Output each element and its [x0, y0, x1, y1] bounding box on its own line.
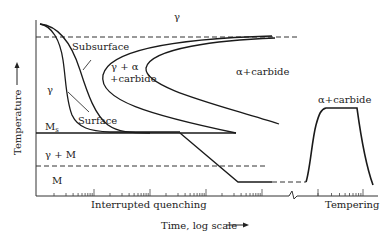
x-axis-ticks: [54, 189, 363, 196]
product-region-label: α+carbide: [236, 66, 289, 77]
subsurface-label: Subsurface: [72, 41, 129, 52]
ms-label: Ms: [45, 121, 59, 134]
tempering-product-label: α+carbide: [318, 94, 371, 105]
y-axis-label-group: Temperature: [12, 89, 23, 155]
quench-path: [180, 133, 272, 182]
x-axis-label: Time, log scale: [161, 220, 237, 231]
interrupted-quenching-label: Interrupted quenching: [91, 199, 207, 210]
gamma-plus-m-label: γ + M: [45, 149, 76, 160]
transformation-finish-curve: [146, 38, 279, 124]
transforming-region-label-1: γ + α: [111, 61, 139, 72]
transforming-region-label-2: +carbide: [110, 73, 157, 84]
tempering-curve: [306, 108, 373, 185]
martensite-label: M: [52, 175, 62, 186]
y-axis-arrow: [15, 62, 20, 85]
tempering-label: Tempering: [325, 199, 380, 210]
gamma-left-label: γ: [47, 84, 53, 95]
y-axis-label: Temperature: [12, 89, 23, 155]
surface-label: Surface: [78, 115, 117, 126]
ttt-diagram: γ γ γ + α +carbide α+carbide α+carbide S…: [0, 0, 389, 237]
x-axis-with-break: [36, 191, 378, 199]
gamma-top-label: γ: [174, 11, 180, 22]
subsurface-pointer: [83, 60, 91, 70]
surface-pointer: [68, 92, 89, 112]
